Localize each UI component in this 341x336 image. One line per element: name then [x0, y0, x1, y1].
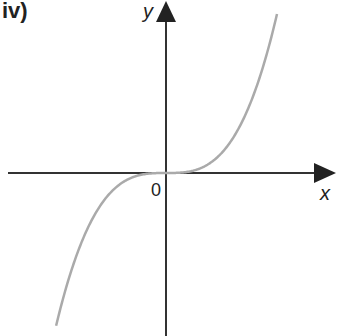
cubic-graph: y x 0	[0, 0, 341, 336]
origin-label: 0	[151, 180, 161, 200]
x-axis-arrow-icon	[314, 163, 336, 183]
y-axis-label: y	[141, 0, 154, 22]
x-axis-label: x	[319, 182, 331, 204]
y-axis-arrow-icon	[156, 1, 176, 22]
